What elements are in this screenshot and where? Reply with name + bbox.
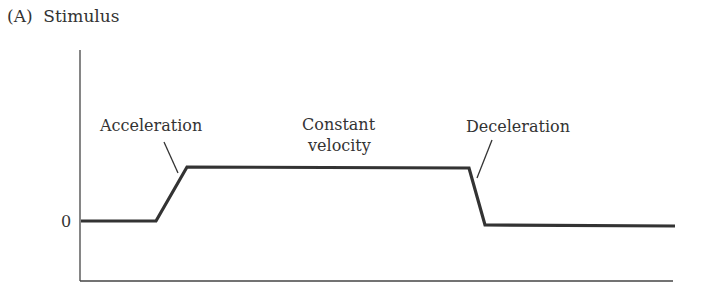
acceleration-leader xyxy=(164,142,178,173)
stimulus-chart: 0 Acceleration Constant velocity Deceler… xyxy=(0,0,702,303)
deceleration-label: Deceleration xyxy=(466,117,570,136)
constant-label-line2: velocity xyxy=(307,136,371,155)
y-zero-label: 0 xyxy=(61,212,71,231)
stimulus-trace xyxy=(81,167,675,226)
acceleration-label: Acceleration xyxy=(99,116,202,135)
constant-label-line1: Constant xyxy=(302,115,376,134)
deceleration-leader xyxy=(477,140,492,178)
